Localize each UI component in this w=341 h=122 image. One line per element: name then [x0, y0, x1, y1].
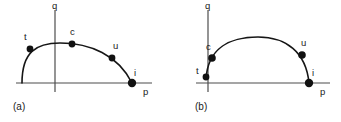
figure-container: t c u i p q (a) t c u i p q (b) [0, 0, 341, 122]
panel-b-point-u [298, 51, 306, 59]
panel-b-label-t: t [196, 65, 199, 76]
panel-a: t c u i p q (a) [0, 0, 170, 122]
panel-b-caption: (b) [195, 101, 207, 112]
panel-b-curve [206, 37, 309, 83]
panel-b-label-u: u [301, 37, 306, 48]
panel-a-label-t: t [24, 31, 27, 42]
panel-b-point-i [305, 79, 313, 87]
panel-a-point-c [69, 41, 76, 48]
panel-a-label-u: u [113, 40, 118, 51]
panel-b-point-c [208, 54, 216, 62]
panel-a-caption: (a) [13, 101, 25, 112]
panel-b-q-axis-label: q [205, 0, 210, 11]
panel-b-p-axis-label: p [320, 86, 325, 97]
panel-b-point-t [203, 74, 210, 81]
panel-b-label-i: i [312, 67, 314, 78]
panel-a-label-c: c [70, 26, 75, 37]
panel-b-label-c: c [206, 41, 211, 52]
panel-b: t c u i p q (b) [170, 0, 340, 122]
panel-a-p-axis-label: p [143, 86, 148, 97]
panel-a-point-i [128, 79, 136, 87]
panel-a-point-u [109, 55, 116, 62]
panel-a-q-axis-label: q [52, 0, 57, 11]
panel-a-point-t [27, 46, 34, 53]
panel-a-plot: t c u i p q [0, 0, 170, 122]
panel-a-label-i: i [134, 67, 136, 78]
